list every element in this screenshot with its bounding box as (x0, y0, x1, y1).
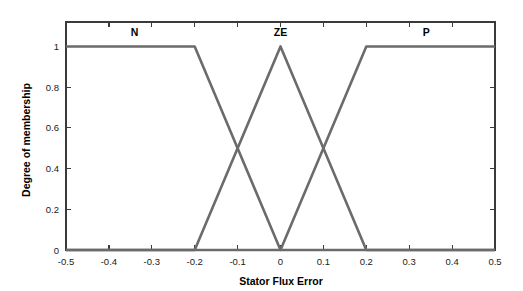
x-tick-label: -0.4 (101, 256, 117, 267)
x-tick-label: -0.1 (229, 256, 245, 267)
y-tick-label: 1 (54, 41, 59, 52)
y-tick-label: 0.8 (46, 82, 59, 93)
x-tick-label: 0.4 (445, 256, 458, 267)
chart-background (0, 0, 523, 291)
x-axis-title: Stator Flux Error (239, 275, 322, 287)
membership-function-chart: -0.5-0.4-0.3-0.2-0.100.10.20.30.40.5 00.… (0, 0, 523, 291)
x-tick-label: -0.2 (187, 256, 203, 267)
x-tick-label: 0 (278, 256, 283, 267)
x-tick-label: 0.5 (488, 256, 501, 267)
y-tick-label: 0.4 (46, 163, 59, 174)
x-tick-label: 0.2 (360, 256, 373, 267)
series-label-p: P (423, 26, 430, 38)
x-tick-label: -0.5 (58, 256, 74, 267)
x-tick-label: 0.1 (317, 256, 330, 267)
x-tick-label: 0.3 (403, 256, 416, 267)
x-tick-label: -0.3 (144, 256, 160, 267)
y-tick-label: 0.2 (46, 204, 59, 215)
series-label-n: N (131, 26, 139, 38)
y-tick-label: 0.6 (46, 122, 59, 133)
y-axis-title: Degree of membership (20, 83, 32, 197)
series-label-ze: ZE (274, 26, 287, 38)
y-tick-label: 0 (54, 245, 59, 256)
